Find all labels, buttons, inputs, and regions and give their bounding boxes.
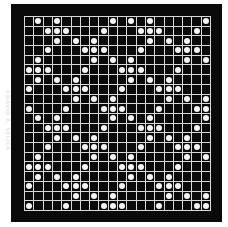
grid-cell [202, 27, 211, 37]
grid-cell [155, 95, 164, 105]
grid-cell [72, 124, 81, 134]
grid-cell [44, 133, 53, 143]
grid-cell-dot [183, 36, 192, 46]
grid-cell-dot [165, 172, 174, 182]
grid-cell [174, 133, 183, 143]
grid-cell [165, 104, 174, 114]
grid-cell-dot [81, 162, 90, 172]
grid-cell [25, 95, 34, 105]
grid-cell-dot [44, 27, 53, 37]
grid-cell-dot [99, 201, 108, 211]
grid-cell-dot [81, 182, 90, 192]
grid-cell [146, 56, 155, 66]
grid-cell-dot [192, 143, 201, 153]
grid-cell [146, 182, 155, 192]
grid-cell-dot [192, 124, 201, 134]
grid-cell-dot [72, 192, 81, 202]
grid-cell [183, 162, 192, 172]
grid-cell [118, 114, 127, 124]
grid-cell [165, 56, 174, 66]
grid-cell-dot [25, 201, 34, 211]
grid-cell-dot [192, 201, 201, 211]
grid-cell [72, 17, 81, 27]
grid-cell [109, 182, 118, 192]
grid-cell [25, 36, 34, 46]
grid-cell [192, 153, 201, 163]
grid-cell [90, 124, 99, 134]
grid-cell-dot [155, 85, 164, 95]
grid-cell [183, 172, 192, 182]
grid-cell [72, 46, 81, 56]
grid-cell [90, 201, 99, 211]
grid-cell [72, 153, 81, 163]
grid-cell [53, 162, 62, 172]
grid-cell-dot [44, 162, 53, 172]
grid-cell-dot [155, 104, 164, 114]
grid-cell-dot [165, 133, 174, 143]
grid-cell [34, 27, 43, 37]
grid-cell-dot [44, 65, 53, 75]
grid-cell-dot [90, 192, 99, 202]
grid-cell [192, 172, 201, 182]
grid-cell-dot [118, 201, 127, 211]
grid-cell [192, 17, 201, 27]
grid-cell-dot [90, 143, 99, 153]
grid-cell [62, 133, 71, 143]
grid-cell-dot [109, 95, 118, 105]
grid-cell [174, 95, 183, 105]
grid-cell [44, 114, 53, 124]
grid-cell-dot [118, 182, 127, 192]
grid-cell [99, 114, 108, 124]
grid-cell [72, 27, 81, 37]
grid-cell-dot [202, 153, 211, 163]
grid-cell [90, 85, 99, 95]
grid-cell [137, 172, 146, 182]
grid-cell-dot [192, 104, 201, 114]
grid-cell [118, 46, 127, 56]
grid-cell-dot [146, 17, 155, 27]
grid-cell-dot [146, 133, 155, 143]
grid-cell [90, 162, 99, 172]
grid-cell-dot [137, 124, 146, 134]
grid-cell [109, 75, 118, 85]
grid-cell [127, 182, 136, 192]
grid-cell-dot [165, 36, 174, 46]
grid-cell [34, 192, 43, 202]
grid-cell [34, 46, 43, 56]
grid-cell [118, 56, 127, 66]
grid-cell [44, 56, 53, 66]
grid-cell [202, 85, 211, 95]
grid-cell [183, 75, 192, 85]
grid-cell-dot [90, 56, 99, 66]
grid-cell [62, 56, 71, 66]
grid-cell [72, 201, 81, 211]
grid-cell [137, 192, 146, 202]
grid-cell [53, 182, 62, 192]
grid-cell [165, 153, 174, 163]
grid-cell [99, 56, 108, 66]
grid-cell [34, 133, 43, 143]
grid-cell [99, 133, 108, 143]
grid-cell-dot [34, 172, 43, 182]
grid-cell-dot [53, 36, 62, 46]
grid-cell [90, 27, 99, 37]
grid-cell [99, 153, 108, 163]
grid-cell-dot [62, 124, 71, 134]
grid-cell [183, 27, 192, 37]
grid-cell [62, 192, 71, 202]
grid-cell-dot [118, 104, 127, 114]
grid-cell [34, 85, 43, 95]
grid-cell [183, 85, 192, 95]
grid-cell [109, 85, 118, 95]
grid-cell-dot [118, 65, 127, 75]
grid-cell-dot [34, 153, 43, 163]
grid-cell [118, 17, 127, 27]
grid-cell [165, 162, 174, 172]
grid-cell [202, 65, 211, 75]
grid-cell-dot [25, 182, 34, 192]
grid-cell [44, 36, 53, 46]
grid-cell-dot [165, 85, 174, 95]
grid-cell [25, 133, 34, 143]
grid-cell [25, 46, 34, 56]
grid-cell [127, 133, 136, 143]
